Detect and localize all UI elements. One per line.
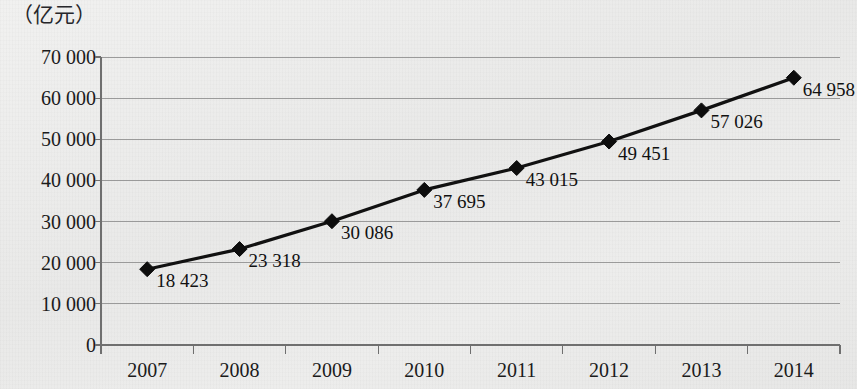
x-axis-tick-label: 2008: [220, 360, 260, 380]
data-point-label: 64 958: [803, 80, 855, 99]
x-axis-tick-label: 2009: [312, 360, 352, 380]
data-point-label: 49 451: [618, 144, 670, 163]
x-axis-tick-label: 2010: [404, 360, 444, 380]
data-point-label: 43 015: [526, 170, 578, 189]
x-axis-tick-marks: [101, 345, 840, 354]
data-point-label: 23 318: [249, 251, 301, 270]
x-axis-tick-label: 2014: [774, 360, 814, 380]
series-markers: [140, 70, 802, 276]
data-point-label: 37 695: [433, 192, 485, 211]
data-point-label: 30 086: [341, 223, 393, 242]
data-point-label: 18 423: [156, 271, 208, 290]
data-point-label: 57 026: [710, 112, 762, 131]
line-chart: （亿元） 010 00020 00030 00040 00050 00060 0…: [0, 0, 857, 389]
x-axis-tick-label: 2012: [589, 360, 629, 380]
x-axis-tick-label: 2007: [127, 360, 167, 380]
x-axis-tick-label: 2013: [681, 360, 721, 380]
plot-area: [0, 0, 857, 389]
x-axis-tick-label: 2011: [497, 360, 536, 380]
series-line: [147, 78, 794, 269]
